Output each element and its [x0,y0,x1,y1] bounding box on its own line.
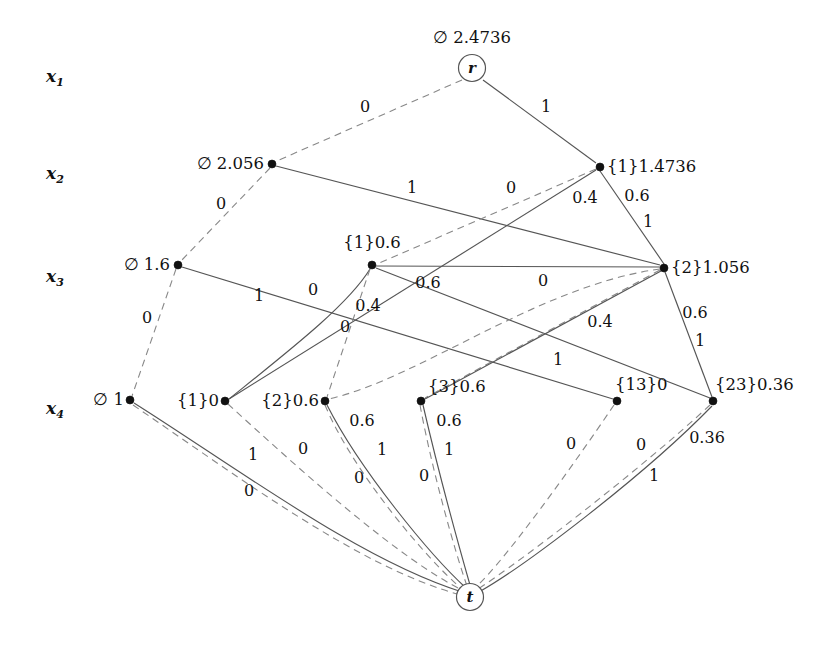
edge-label-n43-t-27: 0 [419,468,429,484]
edge-label-n44-t-28: 0 [566,436,576,452]
row-label-subscript: 4 [56,408,64,421]
edge-n41-to-t [228,404,464,591]
row-label-base: x [46,66,56,86]
node-n43[interactable] [417,397,425,405]
node-value-label-n40: ∅ 1 [93,392,124,409]
row-label-base: x [46,398,56,418]
edge-n30-to-n44 [182,267,613,399]
node-value-label-n20: ∅ 2.056 [197,156,264,173]
node-n20[interactable] [268,160,276,168]
row-label-base: x [46,163,56,183]
edge-label-n20-n30-2: 0 [216,196,226,212]
row-label-subscript: 3 [56,276,64,289]
node-value-label-n45: {23}0.36 [715,377,794,394]
edge-n43-to-t [420,405,467,586]
edge-label-n30-n40-8: 0 [142,310,152,326]
edge-label-n30-n44-9: 1 [254,288,264,304]
row-label-x1: x1 [46,68,64,85]
edge-label-n42-t-24: 0 [354,470,364,486]
edge-n42-to-t [325,405,463,590]
edge-label-n45-t-30: 0.36 [689,430,725,446]
node-n30[interactable] [174,261,182,269]
row-label-x2: x2 [46,165,64,182]
edge-label-n20-n32-3: 1 [407,180,417,196]
node-n42[interactable] [321,397,329,405]
edge-n32-to-n42 [329,269,660,399]
edge-label-n32-n43-16: 0.4 [587,314,612,330]
node-value-label-n44: {13}0 [615,377,668,394]
edge-label-n40-t-19: 1 [248,447,258,463]
row-label-base: x [46,266,56,286]
edge-label-n43-t-26: 1 [444,442,454,458]
node-n44[interactable] [613,397,621,405]
node-n41[interactable] [221,397,229,405]
edge-label-n32-n45-17: 0.6 [682,305,707,321]
edge-label-n41-t-21: 0 [298,441,308,457]
node-value-label-n32: {2}1.056 [671,260,750,277]
edge-label-n32-n42-14: 0 [308,282,318,298]
graph-canvas [0,0,821,645]
edge-n30-to-n40 [132,269,176,396]
edge-label-n21-n41-5: 0.4 [572,190,597,206]
node-value-label-n30: ∅ 1.6 [124,257,171,274]
edge-label-n42-t-22: 0.6 [349,413,374,429]
node-n21[interactable] [596,163,604,171]
edge-label-n45-t-29: 0 [636,437,646,453]
edge-n40-to-t [133,405,461,595]
edge-label-n40-t-20: 0 [244,483,254,499]
edge-label-n32-n45-18: 1 [695,333,705,349]
node-layer [126,55,717,611]
node-value-label-n43: {3}0.6 [428,379,486,396]
node-value-label-r: ∅ 2.4736 [433,30,511,47]
edge-n45-to-t [478,405,710,589]
edge-label-n43-t-25: 0.6 [436,413,461,429]
terminal-letter-t: t [467,590,474,605]
edge-label-n45-t-31: 1 [649,468,659,484]
edge-r-to-n20 [279,80,462,160]
edge-label-n31-n41-10: 0.4 [355,298,380,314]
edge-label-r-n20-0: 0 [360,99,370,115]
edge-n44-to-t [476,405,614,587]
edge-n21-to-n32 [600,171,664,264]
node-value-label-n41: {1}0 [177,393,219,410]
edge-label-n42-t-23: 1 [377,442,387,458]
node-n31[interactable] [368,261,376,269]
row-label-subscript: 1 [56,76,64,89]
edge-label-n21-n31-4: 0 [506,180,516,196]
node-n32[interactable] [660,264,668,272]
edge-label-n21-n32-7: 1 [643,214,653,230]
row-label-subscript: 2 [56,173,64,186]
edge-n31-to-n32 [376,266,660,267]
terminal-letter-r: r [468,61,476,76]
edge-label-n31-n32-12: 0.6 [415,275,440,291]
node-value-label-n42: {2}0.6 [261,393,319,410]
row-label-x3: x3 [46,268,64,285]
edge-r-to-n21 [483,80,596,163]
edge-n20-to-n30 [181,168,270,261]
node-value-label-n31: {1}0.6 [343,235,401,252]
node-n45[interactable] [709,397,717,405]
edge-label-r-n21-1: 1 [541,99,551,115]
edge-label-n32-n43-15: 0 [538,273,548,289]
node-value-label-n21: {1}1.4736 [607,159,696,176]
edge-n40-to-t [134,403,462,592]
edge-label-n31-n45-13: 1 [553,352,563,368]
node-n40[interactable] [126,396,134,404]
edge-label-n31-n42-11: 0 [340,319,350,335]
decision-diagram-figure: x1x2x3x4∅ 2.4736r∅ 2.056{1}1.4736∅ 1.6{1… [0,0,821,645]
edge-label-n21-n32-6: 0.6 [624,188,649,204]
row-label-x4: x4 [46,400,64,417]
